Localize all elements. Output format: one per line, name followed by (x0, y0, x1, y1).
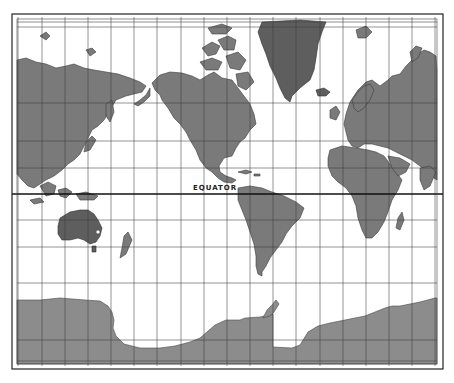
equator-label: EQUATOR (193, 184, 237, 192)
world-map: EQUATOR (0, 0, 454, 383)
